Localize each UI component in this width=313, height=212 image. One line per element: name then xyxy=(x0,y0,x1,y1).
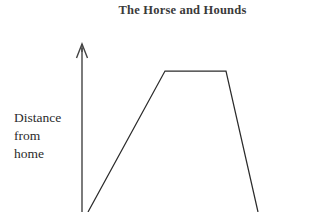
plot-area xyxy=(0,0,313,212)
y-axis xyxy=(77,44,88,212)
distance-time-line xyxy=(88,71,258,212)
figure-canvas: The Horse and Hounds Distance from home xyxy=(0,0,313,212)
